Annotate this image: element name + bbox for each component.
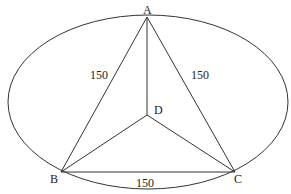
vertex-label-c: C [234,172,242,186]
edge-label-ac: 150 [191,68,209,82]
edge-ac [147,17,235,172]
vertex-label-a: A [143,3,152,17]
edge-bd [61,115,147,172]
vertex-label-d: D [154,103,163,117]
edge-label-bc: 150 [136,176,154,190]
circumscribed-ellipse [8,15,288,189]
edge-ab [61,17,147,172]
vertex-label-b: B [50,172,58,186]
triangle-ellipse-diagram: A B C D 150 150 150 [0,0,291,194]
edge-label-ab: 150 [90,68,108,82]
edge-cd [147,115,235,172]
